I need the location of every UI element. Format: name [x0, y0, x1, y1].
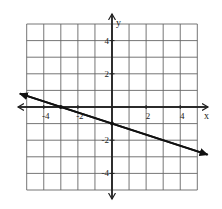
y-axis-label: y [116, 17, 121, 28]
y-tick-label: 2 [105, 69, 110, 79]
axes [18, 14, 208, 199]
coordinate-plane: -4-22442-2-4 x y [0, 0, 222, 209]
x-tick-label: -4 [42, 111, 50, 121]
y-tick-label: 4 [105, 36, 110, 46]
data-point [59, 105, 63, 109]
y-tick-label: -2 [102, 135, 110, 145]
data-line [20, 94, 208, 155]
x-tick-label: 2 [146, 111, 151, 121]
y-tick-label: -4 [102, 168, 110, 178]
data-point [110, 122, 114, 126]
x-tick-label: 4 [180, 111, 185, 121]
x-axis-label: x [204, 110, 209, 121]
